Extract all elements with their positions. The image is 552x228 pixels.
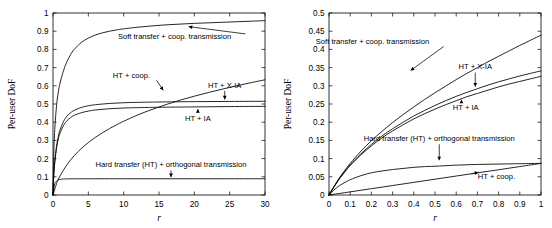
y-tick-label: 0.2: [313, 118, 325, 127]
curve-ht-coop: HT + coop.: [53, 80, 265, 195]
x-tick-label: 15: [154, 200, 164, 209]
y-tick-label: 0.1: [37, 173, 49, 182]
y-tick-label: 0.5: [313, 9, 325, 18]
x-tick-label: 5: [86, 200, 91, 209]
annotation-label: Soft transfer + coop. transmission: [316, 37, 429, 46]
annotation-arrowhead: [189, 25, 193, 29]
y-tick-label: 0.05: [309, 173, 325, 182]
x-tick-label: 0.6: [451, 200, 463, 209]
annotation-arrowhead: [437, 157, 441, 161]
y-tick-label: 0: [44, 191, 49, 200]
y-tick-label: 0.3: [313, 82, 325, 91]
annotation-arrowhead: [196, 109, 200, 113]
figure-container: 05101520253000.10.20.30.40.50.60.70.80.9…: [0, 0, 552, 228]
y-tick-label: 0.4: [37, 118, 49, 127]
annotation-label: HT + X-IA: [208, 81, 242, 90]
y-tick-label: 0.6: [37, 82, 49, 91]
annotation-arrowhead: [223, 96, 227, 100]
x-tick-label: 0.1: [345, 200, 357, 209]
annotation-label: HT + X-IA: [459, 62, 493, 71]
annotation-label: Soft transfer + coop. transmission: [118, 32, 231, 41]
y-axis-title: Per-user DoF: [7, 79, 17, 130]
x-tick-label: 0.4: [408, 200, 420, 209]
chart-panel-left: 05101520253000.10.20.30.40.50.60.70.80.9…: [0, 0, 276, 228]
y-tick-label: 0.4: [313, 45, 325, 54]
curve-soft-transfer-coop-transmission: Soft transfer + coop. transmission: [329, 35, 541, 195]
y-tick-label: 0.5: [37, 100, 49, 109]
annotation-arrow: [411, 47, 444, 71]
x-axis-title: r: [433, 213, 437, 223]
annotation-arrowhead: [473, 83, 477, 87]
y-tick-label: 0.35: [309, 64, 325, 73]
annotation-arrowhead: [460, 100, 464, 104]
x-tick-label: 0.8: [493, 200, 505, 209]
curve-ht-x-ia: HT + X-IA: [53, 101, 265, 195]
chart-panel-right: 00.10.20.30.40.50.60.70.80.9100.050.10.1…: [276, 0, 552, 228]
y-tick-label: 0.25: [309, 100, 325, 109]
curves-group: Soft transfer + coop. transmissionHT + X…: [329, 35, 541, 195]
chart-svg-left: 05101520253000.10.20.30.40.50.60.70.80.9…: [0, 0, 276, 228]
annotation-arrowhead: [411, 67, 415, 71]
y-tick-label: 0.1: [313, 155, 325, 164]
annotation-label: HT + coop.: [478, 172, 515, 181]
y-tick-label: 0.15: [309, 136, 325, 145]
annotation-arrowhead: [169, 174, 173, 178]
chart-svg-right: 00.10.20.30.40.50.60.70.80.9100.050.10.1…: [276, 0, 552, 228]
x-tick-label: 0.5: [429, 200, 441, 209]
x-axis-title: r: [157, 213, 161, 223]
x-tick-label: 0: [51, 200, 56, 209]
x-tick-label: 0.9: [514, 200, 526, 209]
annotation-label: Hard transfer (HT) + orthogonal transmis…: [364, 134, 515, 143]
y-tick-label: 0: [320, 191, 325, 200]
annotations-group: Soft transfer + coop. transmissionHT + X…: [316, 37, 515, 181]
y-tick-label: 0.9: [37, 27, 49, 36]
x-tick-label: 10: [119, 200, 129, 209]
annotation-label: HT + IA: [453, 103, 480, 112]
y-axis-title: Per-user DoF: [283, 79, 293, 130]
y-tick-label: 0.2: [37, 155, 49, 164]
y-tick-label: 0.45: [309, 27, 325, 36]
y-tick-label: 0.3: [37, 136, 49, 145]
x-tick-label: 20: [190, 200, 200, 209]
annotation-label: HT + IA: [185, 114, 212, 123]
x-tick-label: 0.2: [366, 200, 378, 209]
annotation-arrowhead: [160, 86, 164, 90]
x-tick-label: 0.7: [472, 200, 484, 209]
x-tick-label: 0.3: [387, 200, 399, 209]
curve-ht-ia: HT + IA: [53, 106, 265, 195]
annotation-label: HT + coop.: [113, 71, 150, 80]
annotation-label: Hard transfer (HT) + orthogonal transmis…: [96, 160, 247, 169]
x-tick-label: 0: [327, 200, 332, 209]
x-tick-label: 1: [539, 200, 544, 209]
x-tick-label: 30: [260, 200, 270, 209]
y-tick-label: 0.8: [37, 45, 49, 54]
y-tick-label: 1: [44, 9, 49, 18]
x-tick-label: 25: [225, 200, 235, 209]
y-tick-label: 0.7: [37, 64, 49, 73]
